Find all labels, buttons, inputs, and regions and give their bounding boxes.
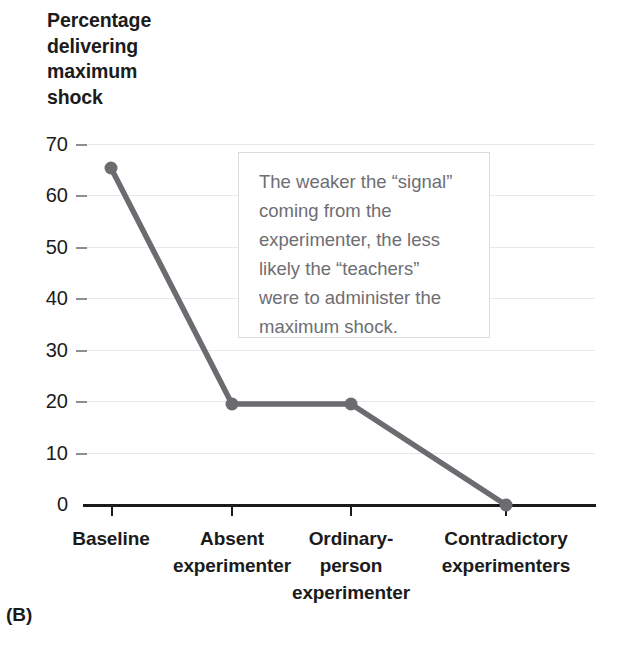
gridline-10 <box>83 453 595 454</box>
gridline-20 <box>83 401 595 402</box>
gridline-30 <box>83 350 595 351</box>
x-tick-label-ordinary-person: Ordinary- person experimenter <box>276 525 426 606</box>
y-tick-label-70: 70 <box>22 134 68 154</box>
y-tick-label-20: 20 <box>22 391 68 411</box>
x-tick-4 <box>505 507 507 516</box>
y-tick-label-10: 10 <box>22 443 68 463</box>
y-tick-label-60: 60 <box>22 185 68 205</box>
y-tick-dash-20 <box>76 401 87 403</box>
gridline-70 <box>83 144 595 145</box>
y-tick-dash-10 <box>76 453 87 455</box>
x-tick-2 <box>231 507 233 516</box>
y-tick-dash-50 <box>76 247 87 249</box>
y-axis-title: Percentage delivering maximum shock <box>47 8 237 110</box>
x-tick-3 <box>350 507 352 516</box>
y-tick-dash-40 <box>76 298 87 300</box>
x-tick-1 <box>111 507 113 516</box>
y-tick-label-30: 30 <box>22 340 68 360</box>
y-tick-label-50: 50 <box>22 237 68 257</box>
x-tick-label-contradictory: Contradictory experimenters <box>427 525 585 579</box>
y-tick-label-40: 40 <box>22 288 68 308</box>
panel-label: (B) <box>6 604 32 626</box>
figure-panel-b: Percentage delivering maximum shock 70 6… <box>0 0 635 652</box>
annotation-text: The weaker the “signal” coming from the … <box>259 167 481 341</box>
x-axis-line <box>83 504 596 507</box>
y-tick-dash-70 <box>76 144 87 146</box>
y-tick-dash-60 <box>76 195 87 197</box>
y-tick-dash-30 <box>76 350 87 352</box>
y-tick-label-0: 0 <box>22 494 68 514</box>
annotation-box: The weaker the “signal” coming from the … <box>238 152 490 338</box>
